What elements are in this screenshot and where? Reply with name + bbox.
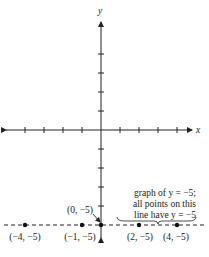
data-point [23,223,27,227]
point-label: (−1, −5) [64,232,95,243]
annotation: graph of y = −5; all points on this line… [93,188,196,224]
point-label: (4, −5) [163,232,189,243]
annotation-line-1: graph of y = −5; [134,188,196,198]
data-point [175,223,179,227]
annotation-line-2: all points on this [133,199,196,209]
annotation-line-3: line have y = −5 [134,210,196,220]
coordinate-plane: (−4, −5)(−1, −5)(0, −5)(2, −5)(4, −5) x … [0,0,209,257]
point-label: (2, −5) [127,232,153,243]
annotation-pointer-arrow [93,214,100,222]
data-point [99,223,103,227]
y-axis-label: y [97,6,103,16]
data-point [80,223,84,227]
x-axis-label: x [195,125,201,135]
data-point [137,223,141,227]
point-label: (−4, −5) [9,232,40,243]
point-label: (0, −5) [67,205,93,216]
